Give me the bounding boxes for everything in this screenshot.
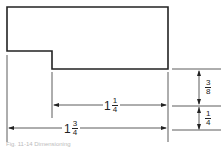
dimension-label-inner: 114 bbox=[104, 97, 118, 114]
arrowhead-icon bbox=[197, 99, 201, 105]
technical-drawing bbox=[0, 0, 223, 151]
arrowhead-icon bbox=[8, 126, 14, 130]
dimension-label-vertical-lower: 14 bbox=[205, 110, 211, 127]
arrowhead-icon bbox=[161, 126, 167, 130]
arrowhead-icon bbox=[197, 107, 201, 113]
part-outline bbox=[7, 7, 168, 69]
arrowhead-icon bbox=[161, 103, 167, 107]
arrowhead-icon bbox=[53, 103, 59, 107]
figure-caption: Fig. 11-14 Dimensioning bbox=[6, 141, 71, 147]
dimension-label-overall: 134 bbox=[64, 120, 78, 137]
dimension-label-vertical-upper: 38 bbox=[205, 79, 211, 96]
arrowhead-icon bbox=[197, 124, 201, 130]
arrowhead-icon bbox=[197, 70, 201, 76]
